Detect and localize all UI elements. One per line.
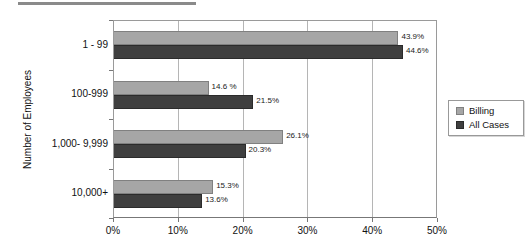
bar-value-label: 13.6% [205,195,228,205]
x-axis-tick [372,218,373,222]
bar-value-label: 43.9% [401,32,424,42]
category-label: 10,000+ [8,187,108,199]
bar-all-cases [114,45,403,59]
x-tick-label: 30% [287,225,327,236]
bar-all-cases [114,95,253,109]
bar-value-label: 26.1% [286,131,309,141]
plot-area [113,20,437,218]
category-label: 100-999 [8,88,108,100]
legend-item: Billing [456,106,517,116]
chart-page: Number of Employees BillingAll Cases 0%1… [0,0,531,251]
bar-all-cases [114,144,246,158]
y-axis-tick [109,70,113,71]
bar-billing [114,130,283,144]
x-axis-tick [113,218,114,222]
y-axis-tick [109,169,113,170]
x-axis-tick [437,218,438,222]
top-rule-divider [18,2,196,5]
y-axis-tick [109,119,113,120]
bar-value-label: 44.6% [406,46,429,56]
bar-all-cases [114,194,202,208]
legend-label: All Cases [469,120,509,130]
x-tick-label: 0% [93,225,133,236]
x-tick-label: 10% [158,225,198,236]
category-label: 1 - 99 [8,39,108,51]
legend-item: All Cases [456,120,517,130]
bar-value-label: 20.3% [249,145,272,155]
legend-swatch-icon [456,121,464,129]
x-tick-label: 40% [352,225,392,236]
x-axis-tick [243,218,244,222]
bar-value-label: 15.3% [216,181,239,191]
x-tick-label: 20% [223,225,263,236]
bar-value-label: 21.5% [256,96,279,106]
legend-label: Billing [469,106,494,116]
y-axis-tick [109,20,113,21]
x-tick-label: 50% [417,225,457,236]
chart-legend: BillingAll Cases [448,100,524,136]
x-axis-tick [307,218,308,222]
bar-value-label: 14.6 % [212,82,237,92]
y-axis-tick [109,218,113,219]
bar-billing [114,81,209,95]
legend-swatch-icon [456,107,464,115]
bar-billing [114,180,213,194]
category-label: 1,000- 9,999 [8,138,108,150]
bar-billing [114,31,398,45]
x-axis-tick [178,218,179,222]
